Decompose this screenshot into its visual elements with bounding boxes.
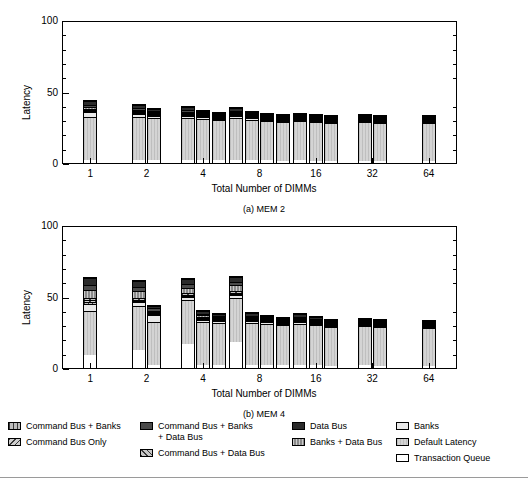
legend-swatch-command-bus-banks	[8, 422, 21, 430]
bar-segment	[423, 123, 435, 161]
y-tick-minor	[63, 240, 66, 241]
bar-stack	[147, 108, 161, 164]
bar-stack	[229, 107, 243, 164]
bar-segment	[230, 342, 242, 368]
bar-stack	[276, 114, 290, 164]
bar-stack	[181, 106, 195, 164]
x-tick-label: 16	[303, 374, 329, 384]
bar-segment	[359, 161, 371, 163]
bar-stack	[212, 313, 226, 369]
bar-segment	[246, 120, 258, 161]
bar-segment	[148, 322, 160, 366]
bar-stack	[358, 114, 372, 164]
legend-swatch-banks	[396, 422, 409, 430]
y-tick-minor	[63, 340, 66, 341]
y-tick-major	[63, 369, 69, 370]
legend-label: Command Bus + Banks	[26, 421, 121, 432]
bar-stack	[422, 115, 436, 164]
bar-stack	[324, 319, 338, 369]
legend-item[interactable]: Command Bus + Banks	[8, 421, 121, 432]
legend-swatch-command-bus-data-bus	[140, 449, 153, 457]
y-tick-minor-right	[453, 312, 456, 313]
bar-segment	[197, 119, 209, 161]
legend-item[interactable]: Command Bus + Banks + Data Bus	[140, 421, 265, 443]
y-tick-minor	[63, 121, 66, 122]
bar-stack	[373, 319, 387, 369]
bar-stack	[83, 277, 97, 369]
x-tick	[316, 363, 317, 368]
bar-segment	[230, 160, 242, 163]
bar-segment	[359, 122, 371, 160]
legend-label: Command Bus + Banks + Data Bus	[158, 421, 253, 443]
bar-stack	[422, 320, 436, 369]
y-tick-minor-right	[453, 50, 456, 51]
bar-stack	[212, 112, 226, 164]
legend-item[interactable]: Data Bus	[292, 421, 382, 432]
y-tick-major	[63, 298, 69, 299]
y-tick-minor-right	[453, 121, 456, 122]
legend-label: Command Bus + Data Bus	[158, 448, 265, 459]
legend-item[interactable]: Banks + Data Bus	[292, 437, 382, 448]
legend-swatch-banks-data-bus	[292, 438, 305, 446]
bar-segment	[133, 160, 145, 163]
bar-segment	[246, 323, 258, 365]
bar-segment	[261, 365, 273, 368]
x-tick	[90, 158, 91, 163]
legend-item[interactable]: Default Latency	[396, 437, 490, 448]
legend-column-3: Data BusBanks + Data Bus	[292, 421, 382, 453]
y-tick-minor	[63, 326, 66, 327]
bar-segment	[310, 325, 322, 366]
legend-item[interactable]: Banks	[396, 421, 490, 432]
bar-segment	[310, 122, 322, 160]
bar-segment	[246, 365, 258, 368]
bar-segment	[423, 328, 435, 366]
x-tick	[429, 363, 430, 368]
bar-stack	[260, 315, 274, 369]
legend-label: Banks	[414, 421, 439, 432]
x-tick	[316, 158, 317, 163]
legend-label: Transaction Queue	[414, 453, 490, 464]
x-tick-label: 2	[134, 169, 160, 179]
bar-segment	[182, 344, 194, 368]
bar-segment	[277, 365, 289, 368]
chart-panel-mem2: Latency Total Number of DIMMs (a) MEM 2 …	[0, 8, 528, 208]
bar-segment	[325, 161, 337, 163]
y-tick-minor	[63, 283, 66, 284]
y-axis-title-b: Latency	[22, 290, 32, 325]
bar-stack	[196, 110, 210, 164]
x-tick-label: 64	[416, 374, 442, 384]
legend-swatch-transaction-queue	[396, 454, 409, 462]
bar-segment	[374, 123, 386, 161]
bar-stack	[309, 114, 323, 164]
bar-segment	[182, 160, 194, 163]
bar-segment	[325, 123, 337, 161]
legend-swatch-command-bus-only	[8, 438, 21, 446]
bar-segment	[261, 121, 273, 161]
legend-swatch-data-bus	[292, 422, 305, 430]
legend-item[interactable]: Transaction Queue	[396, 453, 490, 464]
bar-segment	[374, 161, 386, 163]
legend-column-1: Command Bus + BanksCommand Bus Only	[8, 421, 121, 453]
bar-segment	[84, 290, 96, 298]
x-tick-label: 1	[77, 374, 103, 384]
x-tick-label: 16	[303, 169, 329, 179]
bar-segment	[359, 365, 371, 368]
bar-segment	[133, 117, 145, 160]
y-tick-minor	[63, 150, 66, 151]
y-tick-minor-right	[453, 269, 456, 270]
bar-segment	[213, 160, 225, 163]
x-tick	[260, 158, 261, 163]
legend-item[interactable]: Command Bus + Data Bus	[140, 448, 265, 459]
y-tick-label: 0	[32, 364, 58, 374]
x-axis-title-b: Total Number of DIMMs	[0, 388, 528, 399]
bar-stack	[147, 305, 161, 369]
y-tick-minor	[63, 312, 66, 313]
bar-segment	[294, 160, 306, 163]
bar-segment	[213, 120, 225, 161]
y-tick-minor-right	[453, 107, 456, 108]
legend-item[interactable]: Command Bus Only	[8, 437, 121, 448]
legend-column-2: Command Bus + Banks + Data BusCommand Bu…	[140, 421, 265, 464]
y-tick-minor	[63, 355, 66, 356]
bar-stack	[358, 318, 372, 369]
y-tick-major	[63, 226, 69, 227]
